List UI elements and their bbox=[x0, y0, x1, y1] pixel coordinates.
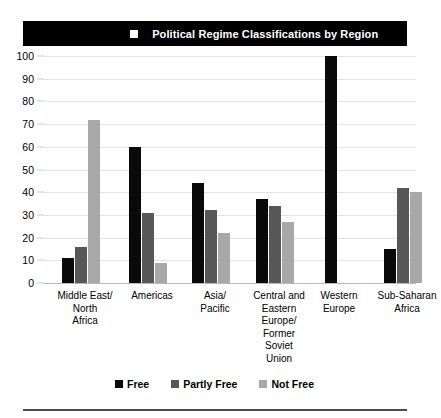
bar-group bbox=[256, 56, 295, 283]
legend-swatch-free bbox=[115, 380, 123, 388]
y-axis-tick-mark bbox=[37, 101, 44, 102]
bar-notfree[interactable] bbox=[218, 233, 230, 283]
bar-group bbox=[384, 56, 423, 283]
white-square-icon bbox=[130, 30, 138, 38]
bar-partly[interactable] bbox=[142, 213, 154, 283]
y-axis-tick-label: 80 bbox=[22, 95, 34, 107]
y-axis-tick-label: 0 bbox=[28, 277, 34, 289]
y-axis-tick-mark bbox=[37, 283, 44, 284]
bar-free[interactable] bbox=[192, 183, 204, 283]
bar-group bbox=[62, 56, 101, 283]
bar-partly[interactable] bbox=[75, 247, 87, 283]
legend-label: Free bbox=[127, 378, 149, 390]
bar-free[interactable] bbox=[384, 249, 396, 283]
y-axis-tick-mark bbox=[37, 169, 44, 170]
x-axis-label: Sub-Saharan Africa bbox=[362, 290, 441, 315]
bar-group bbox=[325, 56, 364, 283]
y-axis-tick-label: 30 bbox=[22, 209, 34, 221]
legend-item-notfree[interactable]: Not Free bbox=[259, 378, 314, 390]
chart-plot-wrapper: 0102030405060708090100 bbox=[0, 56, 429, 284]
legend-item-free[interactable]: Free bbox=[115, 378, 149, 390]
bar-notfree[interactable] bbox=[155, 263, 167, 283]
bar-free[interactable] bbox=[62, 258, 74, 283]
bar-group bbox=[129, 56, 168, 283]
y-axis-tick-label: 60 bbox=[22, 141, 34, 153]
bar-notfree[interactable] bbox=[88, 120, 100, 283]
bar-free[interactable] bbox=[256, 199, 268, 283]
y-axis-tick-label: 20 bbox=[22, 232, 34, 244]
y-axis-tick-mark bbox=[37, 192, 44, 193]
y-axis-tick-mark bbox=[37, 146, 44, 147]
figure-title-bar: FIGURE 7.9 Political Regime Classificati… bbox=[23, 21, 407, 46]
bar-partly[interactable] bbox=[205, 210, 217, 283]
y-axis-tick-mark bbox=[37, 260, 44, 261]
y-axis-tick-mark bbox=[37, 237, 44, 238]
bottom-divider bbox=[23, 409, 407, 411]
legend-item-partly[interactable]: Partly Free bbox=[171, 378, 237, 390]
legend-label: Partly Free bbox=[183, 378, 237, 390]
legend-swatch-partly bbox=[171, 380, 179, 388]
bar-free[interactable] bbox=[129, 147, 141, 283]
bar-free[interactable] bbox=[325, 56, 337, 283]
y-axis-tick-mark bbox=[37, 56, 44, 57]
y-axis-tick-label: 50 bbox=[22, 164, 34, 176]
y-axis-tick-label: 100 bbox=[16, 50, 34, 62]
y-axis-tick-label: 10 bbox=[22, 254, 34, 266]
chart-legend: FreePartly FreeNot Free bbox=[0, 378, 429, 390]
bar-notfree[interactable] bbox=[282, 222, 294, 283]
y-axis: 0102030405060708090100 bbox=[0, 56, 44, 284]
y-axis-tick-mark bbox=[37, 124, 44, 125]
bar-partly[interactable] bbox=[397, 188, 409, 283]
y-axis-tick-mark bbox=[37, 214, 44, 215]
y-axis-tick-label: 90 bbox=[22, 73, 34, 85]
y-axis-tick-label: 70 bbox=[22, 118, 34, 130]
figure-number: FIGURE 7.9 bbox=[32, 25, 119, 43]
legend-label: Not Free bbox=[271, 378, 314, 390]
y-axis-tick-mark bbox=[37, 78, 44, 79]
bar-partly[interactable] bbox=[269, 206, 281, 283]
x-axis-category-labels: Middle East/ North AfricaAmericasAsia/ P… bbox=[44, 290, 416, 370]
page-title: Political Regime Classifications by Regi… bbox=[152, 28, 378, 40]
bar-notfree[interactable] bbox=[410, 192, 422, 283]
y-axis-tick-label: 40 bbox=[22, 186, 34, 198]
x-axis-baseline bbox=[44, 283, 416, 284]
legend-swatch-notfree bbox=[259, 380, 267, 388]
bar-group bbox=[192, 56, 231, 283]
plot-area bbox=[44, 56, 416, 284]
